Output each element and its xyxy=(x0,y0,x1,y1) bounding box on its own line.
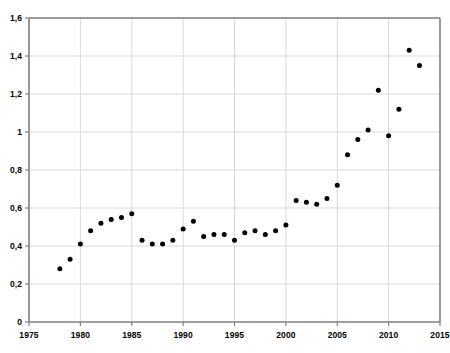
gridlines xyxy=(29,18,440,322)
data-point xyxy=(98,221,103,226)
y-axis-tick-label: 1,6 xyxy=(0,13,22,23)
data-point xyxy=(150,242,155,247)
data-point xyxy=(57,266,62,271)
data-point xyxy=(396,107,401,112)
data-point xyxy=(170,238,175,243)
data-point xyxy=(335,183,340,188)
data-point xyxy=(160,242,165,247)
y-axis-tick-label: 1,4 xyxy=(0,51,22,61)
data-point xyxy=(355,137,360,142)
data-point xyxy=(191,219,196,224)
data-point xyxy=(129,211,134,216)
data-point xyxy=(140,238,145,243)
x-axis-tick-label: 2005 xyxy=(328,330,347,340)
x-axis-tick-label: 1980 xyxy=(71,330,90,340)
data-point xyxy=(222,232,227,237)
x-axis-tick-label: 1995 xyxy=(225,330,244,340)
data-point xyxy=(283,223,288,228)
data-point xyxy=(232,238,237,243)
data-point xyxy=(314,202,319,207)
data-point xyxy=(417,63,422,68)
data-point xyxy=(263,232,268,237)
x-axis-tick-label: 2015 xyxy=(430,330,449,340)
y-axis-tick-label: 1 xyxy=(0,127,22,137)
x-axis-tick-label: 1990 xyxy=(173,330,192,340)
data-points xyxy=(57,48,422,271)
y-axis-tick-label: 0,2 xyxy=(0,279,22,289)
data-point xyxy=(68,257,73,262)
data-point xyxy=(376,88,381,93)
data-point xyxy=(201,234,206,239)
data-point xyxy=(109,217,114,222)
data-point xyxy=(304,200,309,205)
data-point xyxy=(294,198,299,203)
data-point xyxy=(345,152,350,157)
tick-marks xyxy=(25,18,440,326)
x-axis-tick-label: 1985 xyxy=(122,330,141,340)
x-axis-tick-label: 1975 xyxy=(19,330,38,340)
data-point xyxy=(366,128,371,133)
data-point xyxy=(324,196,329,201)
y-axis-tick-label: 1,2 xyxy=(0,89,22,99)
data-point xyxy=(78,242,83,247)
y-axis-tick-label: 0,8 xyxy=(0,165,22,175)
data-point xyxy=(181,226,186,231)
data-point xyxy=(407,48,412,53)
data-point xyxy=(211,232,216,237)
data-point xyxy=(119,215,124,220)
y-axis-tick-label: 0,4 xyxy=(0,241,22,251)
data-point xyxy=(88,228,93,233)
y-axis-tick-label: 0 xyxy=(0,317,22,327)
data-point xyxy=(273,228,278,233)
x-axis-tick-label: 2000 xyxy=(276,330,295,340)
y-axis-tick-label: 0,6 xyxy=(0,203,22,213)
data-point xyxy=(253,228,258,233)
x-axis-tick-label: 2010 xyxy=(379,330,398,340)
data-point xyxy=(386,133,391,138)
data-point xyxy=(242,230,247,235)
